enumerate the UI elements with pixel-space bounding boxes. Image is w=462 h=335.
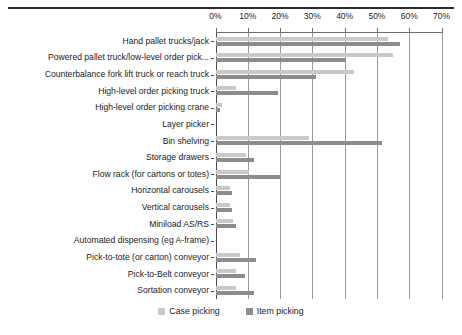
bar-group: [216, 33, 443, 50]
bar-case-picking: [216, 269, 237, 273]
bar-case-picking: [216, 286, 237, 290]
bar-group: [216, 183, 443, 200]
category-row: Pick-to-Belt conveyor: [0, 266, 214, 283]
bar-case-picking: [216, 136, 310, 140]
bar-item-picking: [216, 208, 232, 212]
x-tick-label-1: 10%: [239, 11, 256, 21]
category-row: Sortation conveyor: [0, 282, 214, 299]
y-axis-tick: [211, 158, 214, 159]
category-row: Automated dispensing (eg A-frame): [0, 233, 214, 250]
x-axis-tick-0: [216, 28, 217, 32]
legend-entry-item-picking[interactable]: Item picking: [246, 306, 304, 316]
bar-item-picking: [216, 141, 382, 145]
category-label: Bin shelving: [163, 137, 209, 146]
bar-item-picking: [216, 158, 255, 162]
bar-case-picking: [216, 170, 250, 174]
y-axis-tick: [211, 274, 214, 275]
bar-group: [216, 149, 443, 166]
bar-group: [216, 116, 443, 133]
item-picking-swatch: [246, 308, 253, 315]
x-tick-label-2: 20%: [272, 11, 289, 21]
y-axis-tick: [211, 58, 214, 59]
bar-item-picking: [216, 274, 245, 278]
case-picking-swatch: [158, 308, 165, 315]
bar-group: [216, 233, 443, 250]
bar-group: [216, 216, 443, 233]
bar-item-picking: [216, 175, 281, 179]
bar-group: [216, 266, 443, 283]
category-label: High-level order picking truck: [98, 87, 209, 96]
category-row: High-level order picking crane: [0, 100, 214, 117]
bar-item-picking: [216, 75, 316, 79]
chart-top-rule: [8, 7, 454, 9]
bar-group: [216, 282, 443, 299]
category-row: Horizontal carousels: [0, 183, 214, 200]
y-axis-tick: [211, 224, 214, 225]
y-axis-tick: [211, 91, 214, 92]
bar-group: [216, 133, 443, 150]
bar-group: [216, 166, 443, 183]
y-axis-tick: [211, 208, 214, 209]
category-row: Layer picker: [0, 116, 214, 133]
x-axis-tick-5: [377, 28, 378, 32]
y-axis-tick: [211, 174, 214, 175]
category-label: Hand pallet trucks/jack: [123, 37, 209, 46]
y-axis-tick: [211, 75, 214, 76]
x-axis-tick-3: [312, 28, 313, 32]
bar-item-picking: [216, 291, 255, 295]
category-row: Storage drawers: [0, 149, 214, 166]
y-axis-tick: [211, 108, 214, 109]
bar-item-picking: [216, 42, 400, 46]
category-row: Counterbalance fork lift truck or reach …: [0, 66, 214, 83]
chart-legend: Case pickingItem picking: [0, 306, 462, 316]
x-axis-tick-2: [280, 28, 281, 32]
bar-case-picking: [216, 53, 394, 57]
category-label: Powered pallet truck/low-level order pic…: [48, 53, 209, 62]
bar-case-picking: [216, 186, 231, 190]
category-label: Horizontal carousels: [131, 186, 209, 195]
y-axis-tick: [211, 41, 214, 42]
category-label: Layer picker: [162, 120, 209, 129]
y-axis-tick: [211, 291, 214, 292]
category-label: Pick-to-tote (or carton) conveyor: [86, 253, 209, 262]
bar-chart: 0%10%20%30%40%50%60%70% Hand pallet truc…: [0, 0, 462, 335]
bar-case-picking: [216, 203, 231, 207]
bar-group: [216, 50, 443, 67]
y-axis-tick: [211, 124, 214, 125]
bar-item-picking: [216, 191, 232, 195]
bar-case-picking: [216, 153, 247, 157]
bar-group: [216, 100, 443, 117]
category-label: Miniload AS/RS: [149, 220, 209, 229]
x-axis-tick-4: [345, 28, 346, 32]
category-label: High-level order picking crane: [95, 103, 209, 112]
y-axis-tick: [211, 191, 214, 192]
x-tick-label-0: 0%: [209, 11, 221, 21]
x-axis-tick-labels: 0%10%20%30%40%50%60%70%: [0, 11, 462, 24]
category-row: Pick-to-tote (or carton) conveyor: [0, 249, 214, 266]
category-row: Bin shelving: [0, 133, 214, 150]
bar-series-container: [216, 33, 443, 299]
bar-group: [216, 249, 443, 266]
category-label: Vertical carousels: [142, 203, 209, 212]
bar-case-picking: [216, 70, 355, 74]
category-row: Vertical carousels: [0, 199, 214, 216]
category-row: High-level order picking truck: [0, 83, 214, 100]
bar-case-picking: [216, 103, 222, 107]
category-label: Automated dispensing (eg A-frame): [74, 236, 209, 245]
bar-group: [216, 199, 443, 216]
category-row: Powered pallet truck/low-level order pic…: [0, 50, 214, 67]
category-label: Sortation conveyor: [137, 286, 209, 295]
bar-item-picking: [216, 224, 237, 228]
x-tick-label-5: 50%: [368, 11, 385, 21]
x-tick-label-3: 30%: [304, 11, 321, 21]
category-label: Flow rack (for cartons or totes): [92, 170, 209, 179]
x-tick-label-7: 70%: [433, 11, 450, 21]
bar-case-picking: [216, 219, 234, 223]
legend-label: Case picking: [169, 306, 219, 316]
category-labels: Hand pallet trucks/jackPowered pallet tr…: [0, 33, 214, 299]
bar-item-picking: [216, 258, 256, 262]
category-row: Miniload AS/RS: [0, 216, 214, 233]
y-axis-tick: [211, 241, 214, 242]
legend-entry-case-picking[interactable]: Case picking: [158, 306, 219, 316]
x-tick-label-6: 60%: [401, 11, 418, 21]
